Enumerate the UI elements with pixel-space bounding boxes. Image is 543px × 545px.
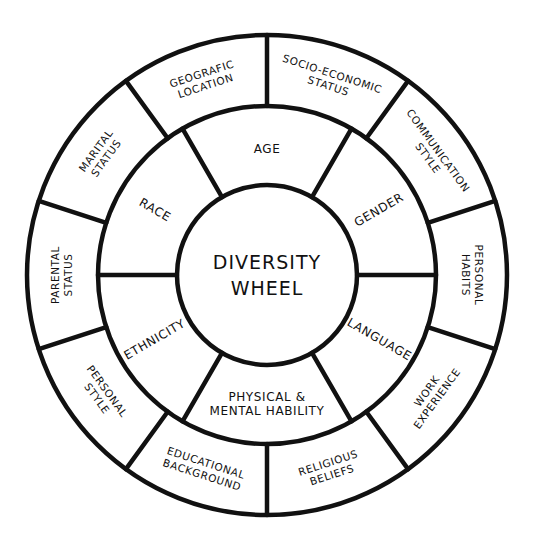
center-circle — [177, 185, 357, 365]
center-label-line-2: WHEEL — [231, 277, 304, 299]
outer-label-parental-status: PARENTALSTATUS — [49, 246, 74, 304]
inner-label-physical-and-mental-hability-line-2: MENTAL HABILITY — [210, 404, 325, 418]
outer-label-personal-habits-line-2: HABITS — [460, 254, 472, 296]
inner-label-age-line-1: AGE — [254, 142, 281, 156]
center-label-line-1: DIVERSITY — [213, 251, 321, 273]
center-label: DIVERSITY WHEEL — [213, 251, 321, 299]
outer-label-personal-habits-line-1: PERSONAL — [473, 245, 485, 306]
diversity-wheel-diagram: AGEGENDERLANGUAGEPHYSICAL &MENTAL HABILI… — [0, 0, 543, 545]
inner-label-physical-and-mental-hability-line-1: PHYSICAL & — [228, 390, 305, 404]
outer-label-parental-status-line-1: PARENTAL — [49, 246, 61, 304]
inner-label-age: AGE — [254, 142, 281, 156]
outer-label-parental-status-line-2: STATUS — [62, 254, 74, 297]
